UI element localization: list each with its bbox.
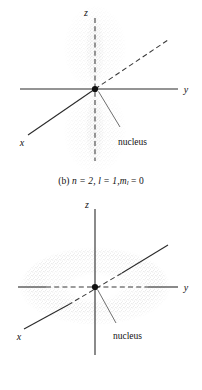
caption-b-m-sub: l [127,179,129,186]
caption-b-prefix: (b) [58,176,69,186]
axis-x-label: x [16,331,22,342]
caption-b-m-symbol: m [120,176,127,186]
orbital-figure: z y x nucleus (b) n = 2, l = 1,ml = 0 [0,0,202,390]
caption-b-m-value: = 0 [131,176,144,186]
panel-c-plot: z y x nucleus [0,195,202,367]
axis-z-label: z [84,199,89,210]
nucleus-dot [92,86,98,92]
caption-b-l: l = 1, [98,176,120,186]
panel-b-caption: (b) n = 2, l = 1,ml = 0 [0,176,202,186]
caption-b-n: n = 2, [72,176,96,186]
nucleus-dot [92,284,98,290]
nucleus-label: nucleus [113,331,142,341]
axis-y-label: y [183,282,189,293]
nucleus-label: nucleus [118,137,147,147]
axis-z-label: z [83,7,88,18]
panel-c: z y x nucleus (c) n = 2, l = 1,ml = ±1 [0,195,202,390]
axis-y-label: y [183,84,189,95]
axis-x-label: x [19,137,25,148]
panel-b-plot: z y x nucleus [0,0,202,172]
panel-b: z y x nucleus (b) n = 2, l = 1,ml = 0 [0,0,202,195]
